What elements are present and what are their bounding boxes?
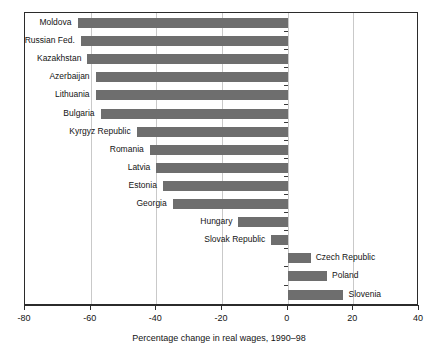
bar	[156, 163, 287, 173]
bar	[96, 90, 288, 100]
x-tick-label: 20	[332, 313, 372, 324]
x-tick--40	[155, 305, 156, 310]
x-axis-title: Percentage change in real wages, 1990–98	[0, 333, 438, 343]
bar-row: Bulgaria	[25, 105, 417, 123]
bar-category-label: Russian Fed.	[25, 33, 75, 48]
x-tick-0	[287, 305, 288, 310]
x-tick-20	[352, 305, 353, 310]
minor-tick	[284, 122, 288, 123]
minor-tick	[284, 266, 288, 267]
minor-tick	[284, 85, 288, 86]
bar-category-label: Kazakhstan	[37, 51, 81, 66]
bar	[163, 181, 288, 191]
bar-row: Kyrgyz Republic	[25, 123, 417, 141]
bar-category-label: Georgia	[137, 196, 167, 211]
minor-tick	[284, 67, 288, 68]
bar-row: Moldova	[25, 14, 417, 32]
bar	[173, 199, 288, 209]
bar-category-label: Moldova	[39, 15, 71, 30]
x-tick-label: -80	[4, 313, 44, 324]
bar-row: Georgia	[25, 195, 417, 213]
bar-category-label: Poland	[332, 268, 358, 283]
bar-row: Slovenia	[25, 286, 417, 304]
bar-category-label: Kyrgyz Republic	[69, 124, 130, 139]
bar-row: Romania	[25, 141, 417, 159]
bar-category-label: Slovak Republic	[204, 232, 265, 247]
minor-tick	[284, 285, 288, 286]
bar-row: Estonia	[25, 177, 417, 195]
bar-category-label: Estonia	[129, 178, 157, 193]
bar-row: Azerbaijan	[25, 68, 417, 86]
minor-tick	[284, 49, 288, 50]
x-tick-label: -60	[70, 313, 110, 324]
bar-row: Latvia	[25, 159, 417, 177]
x-tick-label: -40	[135, 313, 175, 324]
bar	[96, 72, 288, 82]
x-tick-label: 40	[398, 313, 438, 324]
bar-row: Russian Fed.	[25, 32, 417, 50]
x-tick--60	[90, 305, 91, 310]
x-tick-label: 0	[267, 313, 307, 324]
bar	[78, 18, 288, 28]
bar-row: Hungary	[25, 213, 417, 231]
chart-figure: MoldovaRussian Fed.KazakhstanAzerbaijanL…	[0, 0, 438, 356]
bar-row: Kazakhstan	[25, 50, 417, 68]
plot-area: MoldovaRussian Fed.KazakhstanAzerbaijanL…	[24, 12, 418, 305]
bar	[101, 109, 288, 119]
minor-tick	[284, 31, 288, 32]
bar-category-label: Romania	[110, 142, 144, 157]
minor-tick	[284, 176, 288, 177]
bar	[288, 271, 327, 281]
x-tick--20	[221, 305, 222, 310]
x-tick-40	[418, 305, 419, 310]
bar-row: Czech Republic	[25, 249, 417, 267]
minor-tick	[284, 194, 288, 195]
x-tick--80	[24, 305, 25, 310]
bar	[238, 217, 287, 227]
minor-tick	[284, 230, 288, 231]
bar-category-label: Czech Republic	[316, 250, 376, 265]
bar-category-label: Azerbaijan	[49, 69, 89, 84]
minor-tick	[284, 140, 288, 141]
minor-tick	[284, 104, 288, 105]
x-tick-label: -20	[201, 313, 241, 324]
bar	[137, 127, 288, 137]
bar	[87, 54, 287, 64]
bar-category-label: Slovenia	[348, 287, 381, 302]
bar-row: Slovak Republic	[25, 231, 417, 249]
bar-row: Lithuania	[25, 86, 417, 104]
bar-row: Poland	[25, 267, 417, 285]
bar-category-label: Bulgaria	[63, 106, 94, 121]
minor-tick	[284, 248, 288, 249]
bar-category-label: Latvia	[128, 160, 151, 175]
bar	[271, 235, 287, 245]
bar	[288, 253, 311, 263]
bar	[81, 36, 288, 46]
bar	[150, 145, 288, 155]
bar-category-label: Lithuania	[55, 87, 90, 102]
bar-category-label: Hungary	[200, 214, 232, 229]
bar	[288, 290, 344, 300]
minor-tick	[284, 158, 288, 159]
minor-tick	[284, 212, 288, 213]
